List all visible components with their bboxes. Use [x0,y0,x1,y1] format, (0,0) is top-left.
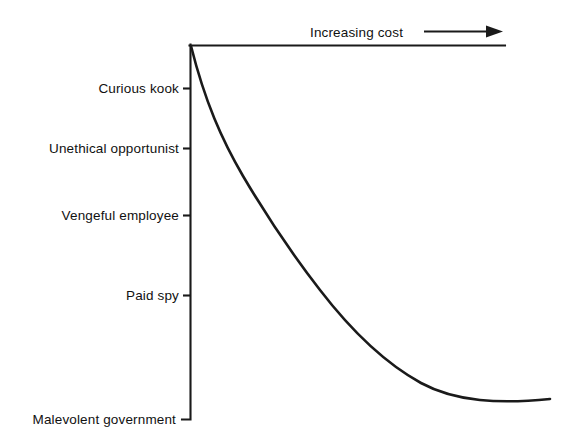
figure-container: Curious kook Unethical opportunist Venge… [0,0,587,447]
ytick-label-curious-kook: Curious kook [98,81,179,96]
ytick-label-vengeful-employee: Vengeful employee [62,208,179,223]
increasing-cost-label: Increasing cost [310,25,403,40]
chart-background [0,0,587,447]
ytick-label-paid-spy: Paid spy [126,288,179,303]
decay-curve-chart: Curious kook Unethical opportunist Venge… [0,0,587,447]
ytick-label-unethical-opportunist: Unethical opportunist [49,141,179,156]
ytick-label-malevolent-government: Malevolent government [33,412,177,427]
